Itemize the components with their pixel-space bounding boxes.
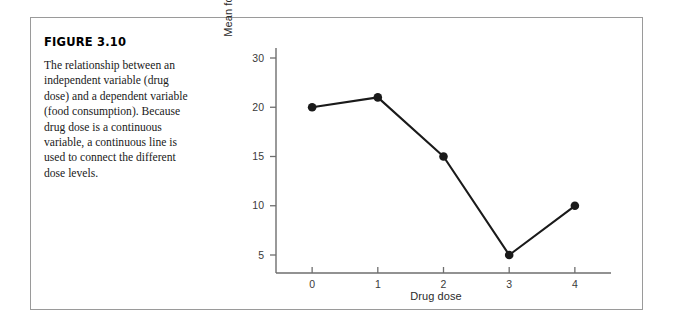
data-point: [505, 251, 514, 260]
y-tick-label: 15: [252, 150, 264, 162]
x-tick-label: 0: [309, 278, 315, 290]
figure-caption-text: The relationship between an independent …: [44, 58, 196, 181]
data-point: [374, 93, 383, 102]
x-tick-label: 3: [506, 278, 512, 290]
plot-area: 302015105 01234: [191, 26, 636, 306]
x-tick-label: 4: [572, 278, 578, 290]
figure-number-title: FIGURE 3.10: [44, 35, 196, 49]
x-tick-label: 1: [375, 278, 381, 290]
y-tick-label: 30: [252, 52, 264, 64]
data-line: [312, 97, 575, 255]
y-tick-label: 5: [258, 249, 264, 261]
data-point: [439, 152, 448, 161]
line-chart: Mean food consumption Drug dose 30201510…: [191, 26, 636, 306]
y-tick-label: 20: [252, 101, 264, 113]
data-point: [571, 201, 580, 210]
figure-caption-block: FIGURE 3.10 The relationship between an …: [44, 35, 196, 181]
y-tick-label: 10: [252, 199, 264, 211]
x-tick-label: 2: [441, 278, 447, 290]
figure-frame: FIGURE 3.10 The relationship between an …: [30, 17, 643, 310]
data-point: [308, 103, 317, 112]
y-axis-ticks: 302015105: [252, 52, 276, 261]
x-axis-ticks: 01234: [309, 267, 578, 290]
